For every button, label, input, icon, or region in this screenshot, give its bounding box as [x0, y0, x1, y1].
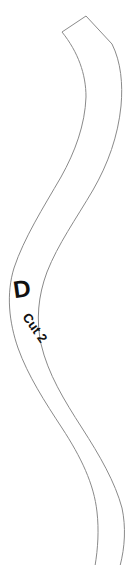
pattern-sheet: D Cut 2	[0, 0, 137, 565]
pattern-piece-drawing: D Cut 2	[0, 0, 137, 565]
